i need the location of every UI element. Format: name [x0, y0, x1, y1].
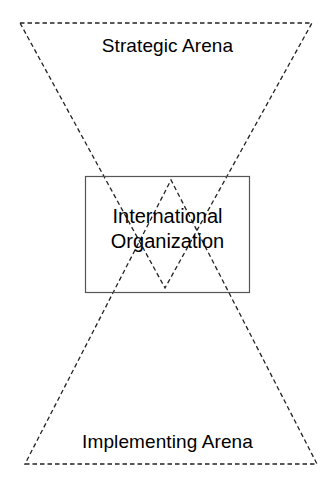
diagram-canvas: Strategic Arena International Organizati…: [0, 0, 335, 488]
implementing-arena-label: Implementing Arena: [0, 432, 335, 451]
international-organization-label: International Organization: [85, 204, 250, 254]
strategic-arena-label: Strategic Arena: [0, 36, 335, 55]
